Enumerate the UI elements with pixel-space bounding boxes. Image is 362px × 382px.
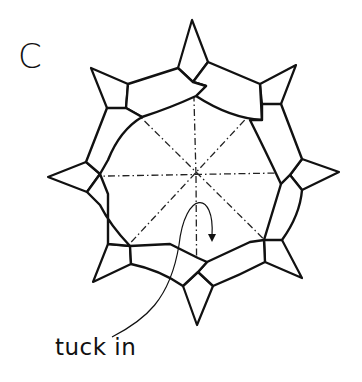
star-spikes (48, 20, 339, 325)
origami-diagram (0, 0, 362, 382)
tuck-in-label: tuck in (55, 334, 136, 360)
